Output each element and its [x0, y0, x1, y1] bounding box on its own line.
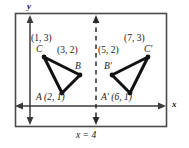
vertex-label-b: B [75, 62, 81, 72]
coord-label-c: (1, 3) [31, 34, 52, 44]
vertex-label-b-prime: B′ [104, 62, 112, 72]
coord-label-b: (3, 2) [57, 46, 78, 56]
reflection-arrow-down [93, 117, 100, 125]
diagram-canvas [0, 0, 189, 148]
reflection-diagram: y x (1, 3) C (3, 2) B A (2, 1) (7, 3) C′… [0, 0, 189, 148]
coord-label-b-prime: (5, 2) [98, 46, 119, 56]
vertex-label-c-prime: C′ [144, 45, 152, 55]
vertex-c [42, 55, 47, 60]
vertex-b-prime [110, 73, 115, 78]
vertex-label-a: A (2, 1) [36, 93, 65, 103]
vertex-label-c: C [36, 45, 42, 55]
line-of-reflection-label: x = 4 [76, 131, 96, 141]
x-axis-label: x [172, 100, 177, 109]
figure-frame [16, 14, 167, 127]
triangle-a-prime-b-prime-c-prime [110, 55, 151, 96]
x-axis [15, 103, 166, 110]
y-axis-label: y [27, 2, 31, 11]
y-axis-arrow-up [27, 15, 34, 23]
y-axis [27, 15, 34, 125]
vertex-c-prime [146, 55, 151, 60]
vertex-b [78, 73, 83, 78]
reflection-arrow-up [93, 15, 100, 23]
x-axis-arrow-right [158, 103, 166, 110]
vertex-label-a-prime: A′ (6, 1) [101, 93, 132, 103]
line-of-reflection [93, 15, 100, 125]
coord-label-c-prime: (7, 3) [124, 34, 145, 44]
y-axis-arrow-down [27, 117, 34, 125]
